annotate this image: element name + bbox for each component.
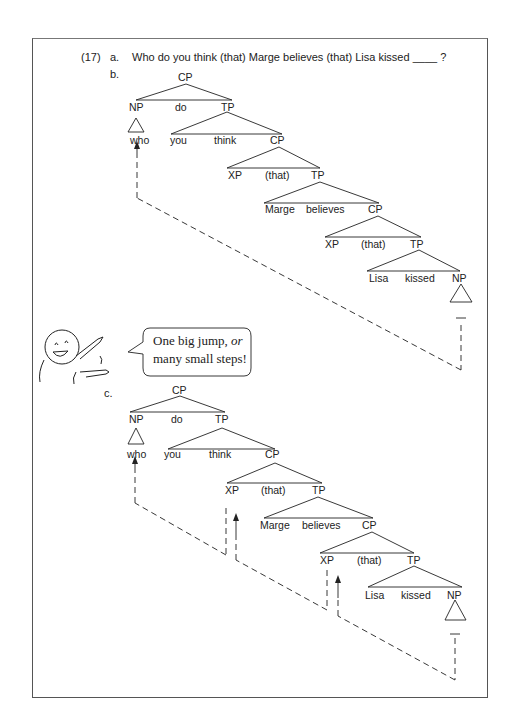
word-believes: believes bbox=[302, 519, 341, 531]
bubble-text-1: One big jump, bbox=[153, 333, 231, 348]
word-marge: Marge bbox=[260, 519, 290, 531]
node-np-who: NP bbox=[129, 101, 144, 113]
bubble-line-2: many small steps! bbox=[153, 351, 247, 367]
word-kissed: kissed bbox=[401, 589, 431, 601]
node-tp: TP bbox=[221, 101, 234, 113]
tree-c-branches bbox=[128, 396, 466, 620]
word-lisa: Lisa bbox=[365, 589, 384, 601]
bubble-emphasis: or bbox=[231, 333, 243, 348]
triangle-obj bbox=[450, 284, 472, 302]
node-np-obj: NP bbox=[452, 272, 467, 284]
node-cp: CP bbox=[265, 448, 280, 460]
word-that: (that) bbox=[357, 554, 382, 566]
node-cp: CP bbox=[178, 71, 193, 83]
word-who: who bbox=[130, 134, 149, 146]
word-think: think bbox=[209, 448, 231, 460]
word-you: you bbox=[164, 448, 181, 460]
word-believes: believes bbox=[306, 203, 345, 215]
word-think: think bbox=[214, 134, 236, 146]
word-that: (that) bbox=[261, 484, 286, 496]
word-kissed: kissed bbox=[405, 272, 435, 284]
tree-b-branches bbox=[128, 84, 472, 302]
word-that: (that) bbox=[361, 238, 386, 250]
node-tp: TP bbox=[410, 238, 423, 250]
node-cp: CP bbox=[362, 519, 377, 531]
node-tp: TP bbox=[312, 484, 325, 496]
word-lisa: Lisa bbox=[369, 272, 388, 284]
node-cp: CP bbox=[368, 203, 383, 215]
movement-arrows-c bbox=[135, 471, 455, 680]
word-marge: Marge bbox=[265, 203, 295, 215]
triangle-obj-c bbox=[445, 600, 466, 620]
bubble-line-1: One big jump, or bbox=[153, 333, 243, 349]
tree-lines bbox=[0, 0, 509, 727]
node-tp: TP bbox=[311, 169, 324, 181]
triangle-who-c bbox=[128, 428, 144, 444]
node-xp: XP bbox=[228, 169, 242, 181]
node-np-obj: NP bbox=[447, 589, 462, 601]
node-do: do bbox=[171, 413, 183, 425]
node-tp: TP bbox=[215, 413, 228, 425]
node-do: do bbox=[175, 101, 187, 113]
node-xp: XP bbox=[325, 238, 339, 250]
node-xp: XP bbox=[225, 484, 239, 496]
node-xp: XP bbox=[320, 554, 334, 566]
triangle-who bbox=[128, 118, 144, 132]
node-cp: CP bbox=[172, 384, 187, 396]
cartoon-figure bbox=[40, 330, 110, 384]
node-np-who: NP bbox=[129, 413, 144, 425]
node-cp: CP bbox=[270, 134, 285, 146]
word-who: who bbox=[127, 448, 146, 460]
word-that: (that) bbox=[265, 169, 290, 181]
node-tp: TP bbox=[407, 554, 420, 566]
word-you: you bbox=[170, 134, 187, 146]
